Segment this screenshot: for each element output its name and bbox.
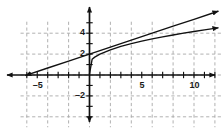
y-tick-label: 2 <box>80 49 85 58</box>
graph-canvas <box>0 0 222 128</box>
x-tick-label: –5 <box>33 81 43 90</box>
coordinate-plane-graph: –551042–2 <box>0 0 222 128</box>
x-tick-label: 10 <box>189 81 199 90</box>
y-tick-label: –2 <box>75 91 85 100</box>
curve-radical <box>90 28 219 74</box>
axis-lines <box>7 7 215 122</box>
y-tick-label: 4 <box>80 28 85 37</box>
axis-ticks <box>27 23 215 117</box>
x-tick-label: 5 <box>139 81 144 90</box>
curve-line <box>26 11 218 75</box>
plotted-curves <box>26 11 218 75</box>
